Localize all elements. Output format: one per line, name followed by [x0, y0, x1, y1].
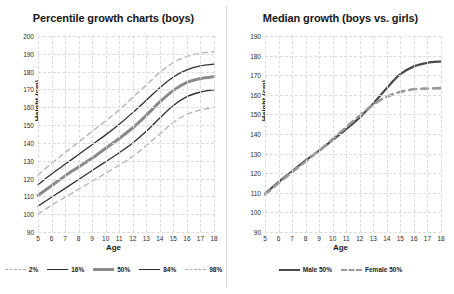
- charts-container: Percentile growth charts (boys) Height (…: [0, 0, 454, 258]
- x-axis-label-right: Age: [227, 243, 454, 252]
- legend-label: Female 50%: [365, 266, 402, 273]
- y-axis-tick-right: 130: [250, 150, 261, 157]
- legend-item[interactable]: 50%: [93, 266, 130, 273]
- plot-area-left: 9010011012013014015016017018019020056789…: [38, 36, 214, 232]
- legend-swatch-icon: [185, 269, 206, 270]
- gridline-vertical: [187, 36, 188, 232]
- y-axis-tick-left: 190: [23, 50, 34, 57]
- gridline-vertical: [160, 36, 161, 232]
- y-axis-tick-right: 120: [250, 170, 261, 177]
- x-axis-label-left: Age: [0, 243, 227, 252]
- x-axis-tick-left: 11: [116, 235, 123, 242]
- y-axis-tick-right: 140: [250, 131, 261, 138]
- gridline-vertical: [427, 36, 428, 232]
- gridline-horizontal: [265, 232, 441, 233]
- y-axis-tick-left: 150: [23, 122, 34, 129]
- x-axis-tick-left: 7: [63, 235, 67, 242]
- gridline-vertical: [200, 36, 201, 232]
- legend-swatch-icon: [279, 269, 300, 271]
- gridline-vertical: [333, 36, 334, 232]
- y-axis-tick-left: 130: [23, 157, 34, 164]
- gridline-vertical: [292, 36, 293, 232]
- x-axis-tick-right: 13: [370, 235, 377, 242]
- x-axis-tick-left: 14: [156, 235, 163, 242]
- x-axis-tick-left: 8: [77, 235, 81, 242]
- legend-item[interactable]: Female 50%: [341, 266, 402, 273]
- gridline-vertical: [79, 36, 80, 232]
- gridline-vertical: [279, 36, 280, 232]
- gridline-vertical: [400, 36, 401, 232]
- y-axis-tick-right: 100: [250, 209, 261, 216]
- chart-title-left: Percentile growth charts (boys): [0, 12, 227, 24]
- x-axis-tick-right: 15: [397, 235, 404, 242]
- x-axis-tick-left: 10: [102, 235, 109, 242]
- legend-swatch-icon: [47, 269, 68, 270]
- y-axis-tick-left: 140: [23, 139, 34, 146]
- gridline-vertical: [173, 36, 174, 232]
- y-axis-tick-left: 120: [23, 175, 34, 182]
- gridline-vertical: [265, 36, 266, 232]
- gridline-vertical: [146, 36, 147, 232]
- legend-swatch-icon: [5, 269, 26, 270]
- x-axis-tick-left: 15: [170, 235, 177, 242]
- x-axis-tick-right: 14: [383, 235, 390, 242]
- y-axis-tick-left: 110: [24, 193, 34, 200]
- x-axis-tick-left: 17: [197, 235, 204, 242]
- y-axis-tick-right: 150: [250, 111, 261, 118]
- legend-item[interactable]: 2%: [5, 266, 38, 273]
- legend-label: 98%: [209, 266, 222, 273]
- y-axis-tick-right: 90: [254, 229, 261, 236]
- legend-swatch-icon: [93, 268, 114, 271]
- x-axis-tick-right: 5: [263, 235, 267, 242]
- y-axis-tick-right: 170: [250, 72, 261, 79]
- gridline-vertical: [387, 36, 388, 232]
- x-axis-tick-right: 18: [437, 235, 444, 242]
- legend-label: 16%: [71, 266, 84, 273]
- x-axis-tick-left: 16: [183, 235, 190, 242]
- x-axis-tick-right: 16: [410, 235, 417, 242]
- gridline-vertical: [441, 36, 442, 232]
- gridline-vertical: [133, 36, 134, 232]
- chart-title-right: Median growth (boys vs. girls): [227, 12, 454, 24]
- x-axis-tick-right: 8: [304, 235, 308, 242]
- legend-swatch-icon: [341, 269, 362, 271]
- gridline-vertical: [65, 36, 66, 232]
- gridline-vertical: [92, 36, 93, 232]
- legend-item[interactable]: Male 50%: [279, 266, 332, 273]
- legend-item[interactable]: 98%: [185, 266, 222, 273]
- chart-panel-median: Median growth (boys vs. girls) Height (c…: [227, 0, 454, 258]
- y-axis-tick-left: 160: [23, 104, 34, 111]
- x-axis-tick-left: 9: [90, 235, 94, 242]
- x-axis-tick-left: 6: [50, 235, 54, 242]
- legend-label: 2%: [29, 266, 38, 273]
- gridline-vertical: [106, 36, 107, 232]
- x-axis-tick-left: 18: [210, 235, 217, 242]
- x-axis-tick-left: 5: [36, 235, 40, 242]
- gridline-vertical: [214, 36, 215, 232]
- legend-swatch-icon: [139, 269, 160, 270]
- x-axis-tick-right: 6: [277, 235, 281, 242]
- x-axis-tick-right: 7: [290, 235, 294, 242]
- y-axis-tick-right: 110: [251, 189, 261, 196]
- legend-item[interactable]: 84%: [139, 266, 176, 273]
- y-axis-tick-left: 180: [23, 68, 34, 75]
- y-axis-tick-right: 190: [250, 33, 261, 40]
- legend-item[interactable]: 16%: [47, 266, 84, 273]
- gridline-vertical: [319, 36, 320, 232]
- gridline-vertical: [52, 36, 53, 232]
- x-axis-tick-right: 9: [317, 235, 321, 242]
- legend-label: 84%: [163, 266, 176, 273]
- gridline-vertical: [306, 36, 307, 232]
- y-axis-tick-left: 100: [23, 211, 34, 218]
- legend-label: 50%: [117, 266, 130, 273]
- gridline-vertical: [360, 36, 361, 232]
- y-axis-tick-right: 160: [250, 91, 261, 98]
- gridline-vertical: [414, 36, 415, 232]
- legend-right: Male 50%Female 50%: [227, 266, 454, 273]
- gridline-horizontal: [38, 232, 214, 233]
- growth-charts-figure: Percentile growth charts (boys) Height (…: [0, 0, 454, 294]
- x-axis-tick-right: 12: [356, 235, 363, 242]
- x-axis-tick-left: 12: [129, 235, 136, 242]
- legend-left: 2%16%50%84%98%: [0, 266, 227, 273]
- y-axis-tick-left: 170: [23, 86, 34, 93]
